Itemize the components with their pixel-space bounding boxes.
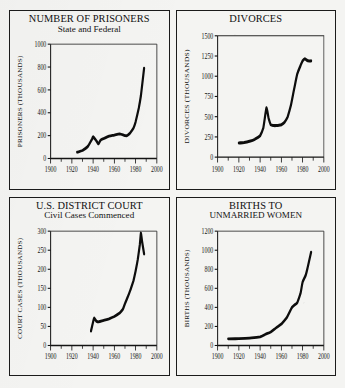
svg-text:1960: 1960 [275, 352, 287, 360]
svg-text:1900: 1900 [211, 352, 223, 360]
chart-prisoners: 0200400600800100019001920194019601980200… [12, 34, 167, 186]
panel-prisoners: NUMBER OF PRISONERS State and Federal 02… [9, 10, 170, 190]
chart-grid: NUMBER OF PRISONERS State and Federal 02… [0, 0, 345, 388]
svg-text:1940: 1940 [254, 352, 266, 360]
svg-text:1980: 1980 [130, 352, 142, 360]
svg-text:1920: 1920 [232, 165, 244, 174]
plot-court-cases: 0501001502002503001900192019401960198020… [12, 221, 167, 373]
panel-title-prisoners: NUMBER OF PRISONERS State and Federal [12, 14, 167, 34]
svg-text:1980: 1980 [296, 165, 308, 174]
svg-text:DIVORCES (THOUSANDS): DIVORCES (THOUSANDS) [184, 49, 191, 143]
chart-divorces: 0250500750100012501500190019201940196019… [179, 25, 334, 187]
svg-text:1920: 1920 [232, 352, 244, 360]
svg-text:1250: 1250 [201, 52, 213, 61]
svg-text:250: 250 [204, 133, 213, 142]
svg-text:2000: 2000 [151, 352, 163, 360]
svg-text:400: 400 [204, 303, 213, 311]
title-sub: UNMARRIED WOMEN [179, 211, 334, 220]
panel-title-court-cases: U.S. DISTRICT COURT Civil Cases Commence… [12, 201, 167, 221]
svg-text:600: 600 [204, 284, 213, 292]
svg-text:100: 100 [37, 303, 46, 311]
svg-text:1000: 1000 [201, 246, 213, 254]
svg-text:1980: 1980 [296, 352, 308, 360]
svg-text:COURT CASES (THOUSANDS): COURT CASES (THOUSANDS) [17, 237, 24, 338]
panel-title-divorces: DIVORCES [179, 14, 334, 25]
svg-text:1500: 1500 [201, 31, 213, 40]
svg-text:1940: 1940 [254, 165, 266, 174]
svg-text:200: 200 [204, 322, 213, 330]
svg-text:0: 0 [43, 154, 46, 162]
panel-divorces: DIVORCES 0250500750100012501500190019201… [176, 10, 337, 190]
svg-text:1960: 1960 [275, 165, 287, 174]
svg-text:150: 150 [37, 284, 46, 292]
svg-text:500: 500 [204, 112, 213, 121]
svg-text:600: 600 [37, 86, 46, 94]
panel-court-cases: U.S. DISTRICT COURT Civil Cases Commence… [9, 197, 170, 377]
svg-text:0: 0 [210, 341, 213, 349]
title-sub: Civil Cases Commenced [12, 211, 167, 220]
svg-text:1920: 1920 [66, 352, 78, 360]
svg-text:BIRTHS (THOUSANDS): BIRTHS (THOUSANDS) [184, 249, 191, 327]
title-main: DIVORCES [179, 14, 334, 25]
svg-text:400: 400 [37, 109, 46, 117]
svg-text:1900: 1900 [211, 165, 223, 174]
svg-text:2000: 2000 [317, 165, 329, 174]
svg-text:1960: 1960 [108, 166, 120, 174]
svg-text:1000: 1000 [201, 72, 213, 81]
svg-text:1200: 1200 [201, 227, 213, 235]
chart-births: 0200400600800100012001900192019401960198… [179, 221, 334, 373]
svg-text:1000: 1000 [35, 40, 47, 48]
svg-text:1940: 1940 [87, 166, 99, 174]
plot-prisoners: 0200400600800100019001920194019601980200… [12, 34, 167, 186]
svg-text:2000: 2000 [317, 352, 329, 360]
plot-births: 0200400600800100012001900192019401960198… [179, 221, 334, 373]
svg-text:750: 750 [204, 92, 213, 101]
svg-text:800: 800 [37, 63, 46, 71]
svg-text:300: 300 [37, 227, 46, 235]
svg-text:2000: 2000 [151, 166, 163, 174]
svg-text:0: 0 [210, 153, 213, 162]
svg-text:0: 0 [43, 341, 46, 349]
panel-births: BIRTHS TO UNMARRIED WOMEN 02004006008001… [176, 197, 337, 377]
svg-text:1900: 1900 [45, 352, 57, 360]
svg-text:250: 250 [37, 246, 46, 254]
svg-text:1960: 1960 [108, 352, 120, 360]
svg-text:200: 200 [37, 265, 46, 273]
svg-text:PRISONERS (THOUSANDS): PRISONERS (THOUSANDS) [17, 56, 24, 148]
svg-text:200: 200 [37, 132, 46, 140]
panel-title-births: BIRTHS TO UNMARRIED WOMEN [179, 201, 334, 221]
title-sub: State and Federal [12, 25, 167, 34]
scanned-page: NUMBER OF PRISONERS State and Federal 02… [0, 0, 345, 388]
svg-text:1980: 1980 [130, 166, 142, 174]
svg-text:800: 800 [204, 265, 213, 273]
svg-text:1940: 1940 [87, 352, 99, 360]
chart-court-cases: 0501001502002503001900192019401960198020… [12, 221, 167, 373]
svg-text:50: 50 [40, 322, 46, 330]
plot-divorces: 0250500750100012501500190019201940196019… [179, 25, 334, 187]
svg-text:1900: 1900 [45, 166, 57, 174]
svg-text:1920: 1920 [66, 166, 78, 174]
